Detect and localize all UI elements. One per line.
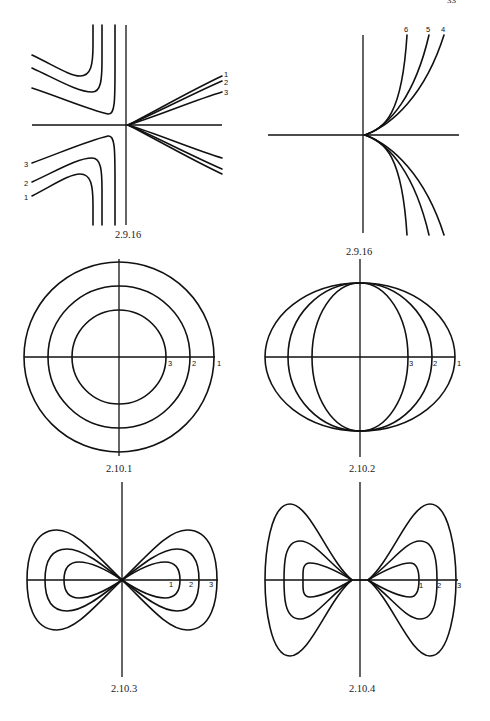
curve-label: 3: [409, 359, 413, 368]
curve-label: 1: [24, 193, 28, 202]
figure-caption: 2.9.16: [115, 229, 141, 240]
curve-label: 6: [404, 25, 408, 34]
curve-4-upper: [365, 35, 444, 135]
curve-label: 2: [224, 78, 228, 87]
curve-1-lower-left: [32, 174, 93, 225]
figure-page: 33 1 2 3 3 2 1 2.9.16: [0, 0, 490, 721]
figure-2-9-16-left: 1 2 3 3 2 1 2.9.16: [24, 25, 228, 240]
figure-2-10-4: 1 2 3 2.10.4: [265, 482, 461, 694]
curve-2-upper-left: [32, 25, 102, 92]
curve-6-lower: [365, 135, 407, 235]
curve-label: 3: [209, 580, 213, 589]
curve-label: 2: [189, 580, 193, 589]
figure-2-10-2: 3 2 1 2.10.2: [265, 259, 461, 474]
curve-label: 2: [433, 359, 437, 368]
curve-2-lower-left: [32, 158, 102, 225]
curve-label: 3: [224, 88, 228, 97]
curve-label: 1: [419, 581, 423, 590]
ray-1-lower-right: [128, 125, 222, 174]
ray-2-upper-right: [128, 81, 222, 125]
figure-caption: 2.10.1: [106, 463, 132, 474]
figure-caption: 2.9.16: [346, 246, 372, 257]
curve-label: 3: [457, 581, 461, 590]
figure-caption: 2.10.4: [349, 683, 376, 694]
ray-3-lower-right: [128, 125, 222, 158]
curve-label: 3: [24, 160, 28, 169]
curve-label: 3: [168, 359, 172, 368]
curve-label: 4: [441, 25, 445, 34]
curve-4-lower: [365, 135, 444, 235]
curve-1-upper-left: [32, 25, 93, 76]
curve-label: 2: [437, 581, 441, 590]
curve-5-upper: [365, 35, 429, 135]
curve-6-upper: [365, 35, 407, 135]
curve-label: 5: [426, 25, 430, 34]
figure-caption: 2.10.2: [349, 463, 375, 474]
page-number: 33: [447, 0, 457, 5]
ray-3-upper-right: [128, 92, 222, 125]
figure-2-9-16-right: 6 5 4 2.9.16: [268, 25, 459, 257]
figure-2-10-3: 1 2 3 2.10.3: [27, 482, 218, 694]
curve-label: 2: [24, 179, 28, 188]
figure-caption: 2.10.3: [111, 683, 137, 694]
ray-1-upper-right: [128, 76, 222, 125]
curve-5-lower: [365, 135, 429, 235]
curve-label: 2: [192, 359, 196, 368]
curve-label: 1: [169, 580, 173, 589]
curve-label: 1: [457, 359, 461, 368]
curve-label: 1: [217, 359, 221, 368]
figure-2-10-1: 3 2 1 2.10.1: [24, 259, 221, 474]
